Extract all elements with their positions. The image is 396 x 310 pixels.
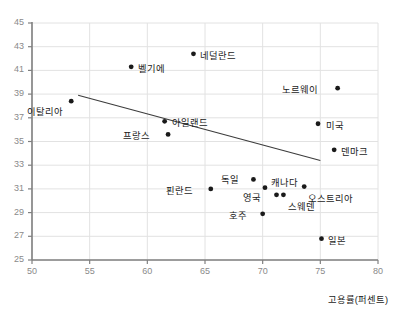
- x-axis-tick-label: 65: [193, 266, 217, 276]
- data-point-label: 미국: [326, 118, 344, 132]
- x-axis-tick-label: 75: [308, 266, 332, 276]
- plot-area: [0, 0, 396, 310]
- data-point-label: 네덜란드: [200, 48, 236, 62]
- x-axis-tick-label: 80: [366, 266, 390, 276]
- x-axis-tick-label: 55: [78, 266, 102, 276]
- data-point-label: 독일: [221, 172, 239, 186]
- y-axis-tick-label: 33: [2, 159, 24, 169]
- data-point[interactable]: [129, 64, 134, 69]
- data-point[interactable]: [319, 236, 324, 241]
- y-axis-tick-label: 29: [2, 207, 24, 217]
- data-point[interactable]: [162, 119, 167, 124]
- x-axis-tick-label: 70: [251, 266, 275, 276]
- x-axis-tick-label: 50: [20, 266, 44, 276]
- data-point[interactable]: [69, 99, 74, 104]
- y-axis-tick-label: 25: [2, 254, 24, 264]
- y-axis-tick-label: 39: [2, 88, 24, 98]
- y-axis-tick-label: 41: [2, 64, 24, 74]
- data-point-label: 호주: [229, 208, 247, 222]
- y-axis-tick-label: 37: [2, 112, 24, 122]
- data-point-label: 영국: [243, 190, 261, 204]
- data-point-label: 캐나다: [271, 175, 298, 189]
- data-point-label: 벨기에: [138, 61, 165, 75]
- y-axis-tick-label: 45: [2, 17, 24, 27]
- data-point-label: 오스트리아: [308, 191, 353, 205]
- data-point-label: 핀란드: [166, 183, 193, 197]
- x-axis-title: 고용률(퍼센트): [328, 292, 388, 306]
- data-point[interactable]: [251, 177, 256, 182]
- data-point[interactable]: [166, 132, 171, 137]
- data-point[interactable]: [335, 86, 340, 91]
- y-axis-tick-label: 35: [2, 136, 24, 146]
- data-point[interactable]: [260, 211, 265, 216]
- data-point-label: 노르웨이: [282, 82, 318, 96]
- data-point-label: 일본: [328, 233, 346, 247]
- data-point[interactable]: [302, 184, 307, 189]
- data-point-label: 이탈리아: [27, 104, 63, 118]
- data-point[interactable]: [208, 187, 213, 192]
- data-point[interactable]: [191, 51, 196, 56]
- y-axis-tick-label: 31: [2, 183, 24, 193]
- data-point[interactable]: [316, 121, 321, 126]
- y-axis-tick-label: 27: [2, 230, 24, 240]
- data-point[interactable]: [281, 192, 286, 197]
- data-point[interactable]: [263, 185, 268, 190]
- x-axis-tick-label: 60: [135, 266, 159, 276]
- y-axis-tick-label: 43: [2, 41, 24, 51]
- data-point-label: 아일랜드: [172, 115, 208, 129]
- scatter-chart: 454341393735333129272550556065707580 이탈리…: [0, 0, 396, 310]
- data-point-label: 프랑스: [123, 128, 150, 142]
- data-point-label: 덴마크: [341, 144, 368, 158]
- data-point[interactable]: [332, 147, 337, 152]
- data-point[interactable]: [274, 192, 279, 197]
